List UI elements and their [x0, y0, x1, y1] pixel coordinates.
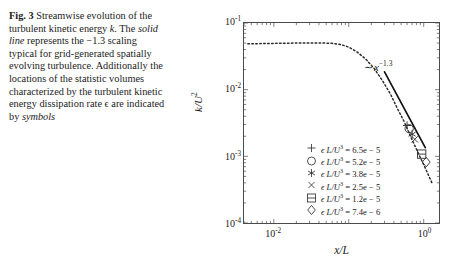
- data-marker-asterisk: [308, 169, 315, 177]
- legend-marker-plus: [305, 142, 318, 154]
- figure-caption-label: Fig. 3: [9, 10, 34, 21]
- data-marker-square: [308, 194, 316, 202]
- data-marker-diamond: [422, 157, 430, 167]
- legend-marker-circle: [305, 155, 318, 167]
- x-axis-label: x/L: [243, 244, 440, 256]
- legend-marker-cross: [305, 179, 318, 191]
- y-tick-label: 10-4: [225, 217, 241, 229]
- x-tick-label: 100: [418, 227, 432, 239]
- data-marker-circle: [308, 157, 316, 165]
- y-tick-label: 10-1: [225, 15, 241, 27]
- data-marker-cross: [308, 182, 314, 188]
- figure-caption-body: Streamwise evolution of the turbulent ki…: [9, 10, 164, 122]
- data-marker-plus: [308, 144, 316, 152]
- slope-annotation: ∼ x−1.3: [364, 59, 392, 74]
- reference-slope-line: [385, 72, 426, 148]
- y-tick-label: 10-3: [225, 150, 241, 162]
- y-axis-label: k/U2: [190, 92, 204, 112]
- legend-item-label: ϵ L/U3 = 7.4e − 6: [321, 203, 380, 218]
- y-axis-ticks: 10-110-210-310-4: [196, 8, 241, 238]
- legend-marker-asterisk: [305, 167, 318, 179]
- legend-marker-diamond: [305, 204, 318, 216]
- slope-annotation-text: ∼ x: [364, 61, 379, 73]
- x-tick-label: 10-2: [265, 227, 281, 239]
- figure-caption: Fig. 3 Streamwise evolution of the turbu…: [9, 10, 167, 123]
- chart-figure: 10-110-210-310-4 k/U2 ∼ x−1.3 ϵ L/U3 = 6…: [196, 8, 464, 260]
- data-markers: [403, 121, 430, 167]
- data-marker-square: [418, 150, 426, 158]
- y-tick-label: 10-2: [225, 82, 241, 94]
- x-axis-ticks: 10-2100: [243, 227, 440, 243]
- plot-area: ∼ x−1.3 ϵ L/U3 = 6.5e − 5ϵ L/U3 = 5.2e −…: [243, 22, 440, 224]
- legend-item: ϵ L/U3 = 7.4e − 6: [305, 204, 380, 216]
- slope-annotation-exponent: −1.3: [379, 59, 393, 68]
- figure-page: Fig. 3 Streamwise evolution of the turbu…: [0, 0, 469, 265]
- chart-legend: ϵ L/U3 = 6.5e − 5ϵ L/U3 = 5.2e − 5ϵ L/U3…: [305, 142, 380, 216]
- data-marker-diamond: [308, 206, 316, 215]
- legend-marker-square: [305, 192, 318, 204]
